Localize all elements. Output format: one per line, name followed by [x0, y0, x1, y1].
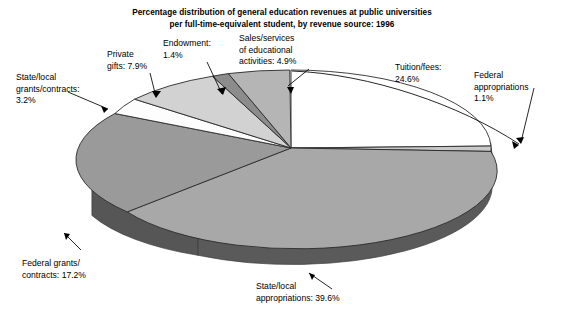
label-sales-services: Sales/services of educational activities…: [239, 33, 296, 68]
label-state-local-appropriations: State/local appropriations: 39.6%: [256, 281, 340, 304]
label-federal-appropriations: Federal appropriations 1.1%: [474, 70, 528, 105]
label-endowment: Endowment: 1.4%: [163, 38, 211, 61]
label-federal-grants-contracts: Federal grants/ contracts: 17.2%: [22, 258, 86, 281]
arrowhead-federal-grants-contracts: [64, 233, 70, 240]
label-state-local-grants-contracts: State/local grants/contracts: 3.2%: [16, 72, 80, 107]
label-tuition-fees: Tuition/fees: 24.6%: [395, 62, 442, 85]
slice-top-tuition-fees: [291, 70, 491, 148]
pie-chart-figure: Percentage distribution of general educa…: [0, 0, 564, 327]
label-private-gifts: Private gifts: 7.9%: [107, 49, 147, 72]
arrowhead-state-local-grants-contracts: [101, 106, 108, 113]
